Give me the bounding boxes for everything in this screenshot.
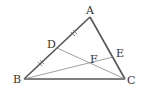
label-d: D	[47, 38, 56, 51]
label-e: E	[116, 47, 124, 60]
label-b: B	[13, 73, 21, 86]
label-c: C	[127, 74, 135, 87]
label-a: A	[85, 4, 95, 17]
segment-be	[24, 57, 113, 79]
label-f: F	[90, 53, 98, 66]
triangle-diagram: A B C D E F	[0, 0, 144, 95]
